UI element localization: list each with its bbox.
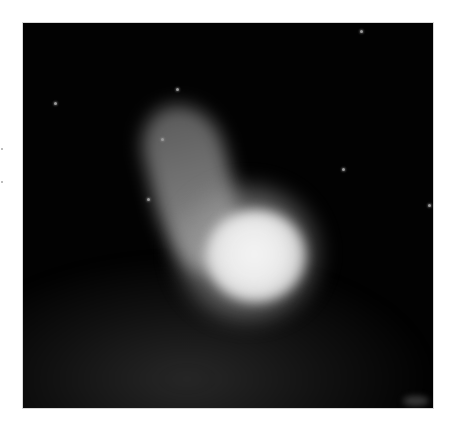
photo (22, 22, 434, 409)
star-dot (147, 198, 150, 201)
page (0, 0, 456, 429)
star-dot (342, 168, 345, 171)
star-dot (161, 138, 164, 141)
plume-core (206, 210, 306, 302)
star-dot (428, 204, 431, 207)
stray-mark (1, 181, 3, 183)
star-dot (176, 88, 179, 91)
corner-smudge (403, 396, 429, 406)
star-dot (54, 102, 57, 105)
stray-mark (1, 148, 3, 150)
star-dot (360, 30, 363, 33)
